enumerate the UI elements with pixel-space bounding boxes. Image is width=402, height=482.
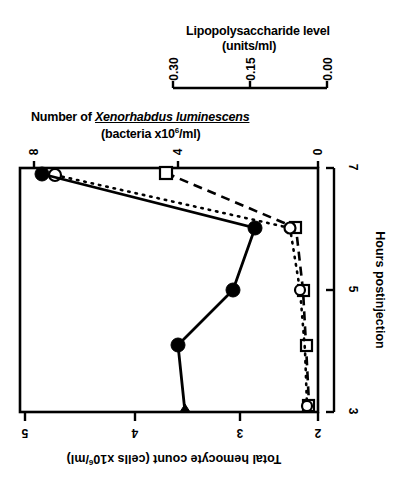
- hemocyte-tick-label-1: 4: [122, 426, 148, 440]
- time-tick-label-0: 7: [346, 157, 360, 177]
- hemocyte-tick-label-0: 5: [12, 426, 38, 440]
- hemocyte-exponent: 6: [89, 458, 93, 467]
- data-point-filled-circle: [171, 338, 185, 352]
- plot-frame: [20, 168, 318, 412]
- data-point-filled-marker: [180, 404, 190, 412]
- data-point-open-circle: [285, 223, 296, 234]
- hemocyte-axis-title: Total hemocyte count (cells x106/ml): [34, 452, 314, 467]
- series-hemocyte-line: [42, 174, 255, 412]
- hemocyte-axis-ticks: [25, 412, 318, 421]
- plot-svg: [0, 0, 402, 482]
- hemocyte-tick-label-3: 2: [305, 426, 331, 440]
- data-point-filled-circle: [35, 167, 49, 181]
- data-point-square: [301, 340, 312, 351]
- time-tick-label-2: 3: [346, 401, 360, 421]
- series-hemocyte: [35, 167, 262, 412]
- hemocyte-tick-label-2: 3: [227, 426, 253, 440]
- data-point-square: [160, 167, 172, 179]
- data-point-open-circle: [295, 285, 305, 295]
- hemocyte-title-prefix: Total hemocyte count (cells x10: [93, 452, 281, 466]
- data-point-filled-circle: [226, 283, 240, 297]
- time-axis: [326, 168, 334, 412]
- data-point-open-circle: [302, 401, 312, 411]
- time-tick-label-1: 5: [346, 279, 360, 299]
- figure-panel: Lipopolysaccharide level (units/ml) 0.30…: [0, 0, 402, 482]
- hemocyte-title-suffix: /ml): [67, 452, 89, 466]
- data-point-filled-circle: [248, 221, 262, 235]
- time-axis-title: Hours postinjection: [373, 210, 387, 370]
